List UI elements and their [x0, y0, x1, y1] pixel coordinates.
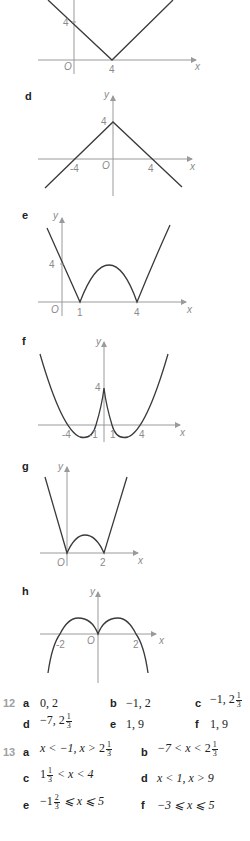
y-axis-label: y	[95, 336, 102, 347]
y-tick-label: 4	[95, 382, 101, 393]
answer-text: 0, 2	[40, 696, 58, 711]
question-number: 13	[3, 746, 15, 758]
curve	[47, 225, 170, 302]
fraction: 13	[106, 741, 112, 758]
graph-f: f y 4 -4 -1 1 4 x	[22, 335, 186, 442]
part-letter-f: f	[22, 335, 26, 347]
fraction: 13	[47, 767, 53, 784]
fraction: 13	[236, 692, 242, 709]
answer-text: x < −1, x > 213	[40, 741, 113, 758]
curve	[45, 477, 127, 553]
x-tick-label: -1	[89, 429, 98, 440]
x-axis-label: x	[189, 161, 196, 172]
part-letter: b	[141, 746, 148, 758]
part-letter: c	[195, 697, 201, 709]
y-axis-label: y	[103, 89, 110, 100]
graph-c: 4 O 4 x	[38, 0, 201, 75]
part-letter-h: h	[22, 585, 29, 597]
question-number: 12	[3, 697, 15, 709]
answer-text: 1, 9	[126, 717, 144, 732]
x-tick-label: 2	[100, 557, 106, 568]
graph-h: h y -2 O 2 x	[22, 585, 165, 683]
x-tick-label: -4	[70, 163, 79, 174]
origin-label: O	[102, 160, 110, 171]
x-tick-label: -2	[56, 639, 65, 650]
part-letter: f	[195, 718, 199, 730]
fraction: 23	[54, 794, 60, 811]
x-tick-label: 2	[133, 639, 139, 650]
x-axis-label: x	[194, 61, 201, 72]
x-axis-label: x	[137, 555, 144, 566]
answer-text: −1, 2	[126, 696, 151, 711]
curve	[48, 0, 173, 60]
y-axis-label: y	[57, 461, 64, 472]
answer-text: −7, 213	[40, 713, 73, 730]
answer-text: −7 < x < 213	[157, 741, 219, 758]
part-letter: a	[23, 697, 29, 709]
graph-e: e y 4 O 1 4 x	[22, 209, 193, 318]
origin-label: O	[51, 304, 59, 315]
x-tick-label: 4	[139, 429, 145, 440]
fraction: 13	[212, 741, 218, 758]
origin-label: O	[57, 557, 65, 568]
y-tick-label: 4	[63, 17, 69, 28]
part-letter: c	[23, 772, 29, 784]
part-letter: d	[23, 718, 30, 730]
origin-label: O	[87, 635, 95, 646]
part-letter: e	[23, 799, 29, 811]
graph-g: g y O 2 x	[22, 460, 144, 568]
part-letter-e: e	[22, 209, 28, 221]
x-tick-label: -4	[62, 429, 71, 440]
answer-text: −1, 213	[210, 692, 243, 709]
y-tick-label: 4	[101, 116, 107, 127]
answer-text: −123 ⩽ x ⩽ 5	[40, 794, 104, 811]
x-tick-label: 4	[134, 307, 140, 318]
x-tick-label: 4	[148, 163, 154, 174]
part-letter: d	[141, 772, 148, 784]
x-tick-label: 1	[110, 429, 116, 440]
origin-label: O	[64, 61, 72, 72]
x-axis-label: x	[158, 635, 165, 646]
answer-text: 113 < x < 4	[40, 767, 94, 784]
part-letter-g: g	[22, 460, 29, 472]
x-axis-label: x	[179, 427, 186, 438]
part-letter: b	[110, 697, 117, 709]
answer-text: 1, 9	[210, 717, 228, 732]
part-letter: e	[110, 718, 116, 730]
y-axis-label: y	[52, 210, 59, 221]
y-tick-label: 4	[49, 259, 55, 270]
x-axis-label: x	[186, 304, 193, 315]
part-letter-d: d	[25, 90, 32, 102]
x-tick-label: 4	[109, 64, 115, 75]
answer-text: x < 1, x > 9	[157, 771, 214, 786]
part-letter: a	[23, 746, 29, 758]
x-tick-label: 1	[77, 307, 83, 318]
answer-text: −3 ⩽ x ⩽ 5	[157, 798, 214, 813]
part-letter: f	[141, 799, 145, 811]
fraction: 13	[66, 713, 72, 730]
graph-sketches: 4 O 4 x d y 4 -4 O 4 x e y 4 O 1 4 x f y	[0, 0, 250, 690]
graph-d: d y 4 -4 O 4 x	[25, 89, 196, 196]
y-axis-label: y	[89, 586, 96, 597]
